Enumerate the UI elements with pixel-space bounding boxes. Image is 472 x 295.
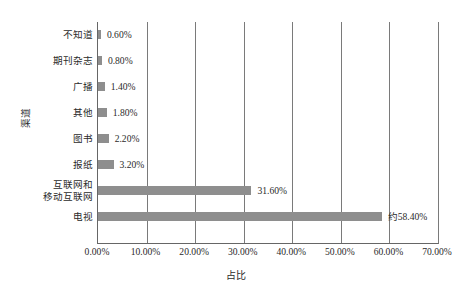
bar-chart: 渠道 不知道期刊杂志广播其他图书报纸互联网和移动互联网电视 0.60%0.80%… [0,0,472,295]
category-label: 广播 [29,81,93,92]
x-axis-title: 占比 [0,270,472,282]
gridline [341,22,342,243]
category-label: 互联网和移动互联网 [29,179,93,201]
category-label-line: 其他 [73,107,93,118]
category-label-line: 图书 [73,133,93,144]
bar [98,56,102,65]
plot-area: 0.60%0.80%1.40%1.80%2.20%3.20%31.60%约58.… [97,22,439,244]
gridline [292,22,293,243]
bar-value-label: 约58.40% [388,211,428,222]
category-label-line: 不知道 [63,29,93,40]
gridline [389,22,390,243]
bar [98,30,101,39]
category-label: 其他 [29,107,93,118]
bar [98,186,251,195]
category-label: 不知道 [29,29,93,40]
category-label-line: 电视 [73,211,93,222]
gridline [147,22,148,243]
x-axis-tick-label: 70.00% [407,246,467,258]
category-label: 报纸 [29,159,93,170]
bar [98,160,114,169]
bar [98,212,382,221]
bar [98,108,107,117]
x-axis-tick-labels: 0.00%10.00%20.00%30.00%40.00%50.00%60.00… [0,246,472,260]
gridline [244,22,245,243]
category-label: 期刊杂志 [29,55,93,66]
bar-value-label: 1.40% [111,81,136,92]
category-label-column: 不知道期刊杂志广播其他图书报纸互联网和移动互联网电视 [30,22,95,243]
gridline [195,22,196,243]
bar-value-label: 0.80% [108,55,133,66]
bar-value-label: 0.60% [107,29,132,40]
bar-value-label: 3.20% [120,159,145,170]
bar-value-label: 1.80% [113,107,138,118]
category-label: 电视 [29,211,93,222]
category-label: 图书 [29,133,93,144]
category-label-line: 广播 [73,81,93,92]
category-label-line: 移动互联网 [29,191,93,202]
bar-value-label: 31.60% [257,185,287,196]
bar [98,134,109,143]
bar [98,82,105,91]
category-label-line: 互联网和 [53,179,93,190]
category-label-line: 报纸 [73,159,93,170]
bar-value-label: 2.20% [115,133,140,144]
category-label-line: 期刊杂志 [53,55,93,66]
